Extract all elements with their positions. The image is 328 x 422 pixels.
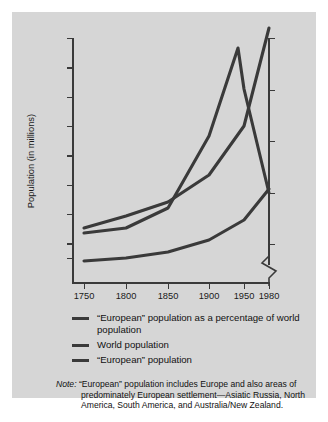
left-axis-title: Population (in millions) (25, 114, 36, 208)
note-label: Note: (56, 379, 77, 389)
legend-item-european-population: “European” population (72, 354, 308, 366)
xlabel-1750: 1750 (74, 291, 95, 301)
tick-bottom-1850 (168, 284, 169, 289)
legend-swatch-icon (72, 359, 89, 362)
series-line-european-percentage (84, 48, 269, 233)
legend-item-european-percentage: “European” population as a percentage of… (72, 312, 308, 336)
tick-bottom-1900 (209, 284, 210, 289)
plot-area: 4,000 3,500 3,000 2,500 2,000 1,500 1,00… (72, 38, 270, 284)
legend-swatch-icon (72, 344, 89, 347)
tick-bottom-1980 (269, 284, 270, 289)
legend-swatch-icon (72, 317, 89, 320)
tick-right-30 (270, 141, 275, 142)
figure-note: Note: “European” population includes Eur… (56, 379, 327, 411)
tick-bottom-1750 (84, 284, 85, 289)
xlabel-1800: 1800 (116, 291, 137, 301)
tick-right-40 (270, 38, 275, 39)
xlabel-1850: 1850 (158, 291, 179, 301)
tick-right-35 (270, 90, 275, 91)
series-line-european-population (84, 189, 269, 261)
series-line-world-population (84, 28, 269, 228)
tick-bottom-1950 (244, 284, 245, 289)
figure-panel: 4,000 3,500 3,000 2,500 2,000 1,500 1,00… (12, 12, 316, 398)
xlabel-1980: 1980 (259, 291, 280, 301)
legend: “European” population as a percentage of… (72, 312, 308, 369)
tick-right-25 (270, 193, 275, 194)
legend-item-world-population: World population (72, 339, 308, 351)
xlabel-1900: 1900 (199, 291, 220, 301)
legend-label: “European” population as a percentage of… (97, 312, 308, 336)
tick-bottom-1800 (126, 284, 127, 289)
note-text: “European” population includes Europe an… (79, 379, 305, 410)
legend-label: “European” population (97, 354, 192, 366)
legend-label: World population (97, 339, 169, 351)
xlabel-1950: 1950 (234, 291, 255, 301)
data-curves (72, 38, 270, 284)
